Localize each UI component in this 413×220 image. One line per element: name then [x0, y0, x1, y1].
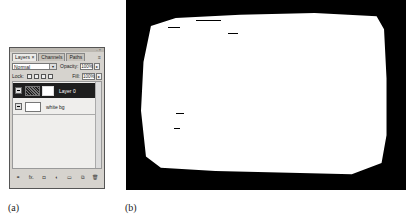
lock-row: Lock: Fill: 100% ▸: [12, 72, 102, 80]
lock-all-icon[interactable]: [48, 74, 53, 79]
group-icon[interactable]: ▭: [66, 174, 73, 180]
layer-thumbnail: [25, 86, 40, 96]
chevron-down-icon: ▾: [49, 64, 56, 69]
mask-icon[interactable]: ◘: [41, 174, 48, 180]
lock-icons: [27, 74, 53, 79]
eye-icon[interactable]: [15, 87, 22, 94]
panel-title-bar[interactable]: - ×: [10, 48, 104, 52]
lock-transparency-icon[interactable]: [27, 74, 32, 79]
trash-icon[interactable]: 🗑: [92, 174, 99, 180]
blend-row: Normal ▾ Opacity: 100% ▸: [12, 62, 102, 70]
streak: [176, 113, 184, 114]
tab-channels[interactable]: Channels: [38, 53, 65, 61]
panel-menu-icon[interactable]: ≡: [98, 54, 101, 60]
layers-scrollbar[interactable]: [95, 82, 101, 168]
panel-footer: ⚭ fx. ◘ ◐ ▭ ⧉ 🗑: [12, 172, 102, 181]
layer-row-white-bg[interactable]: white bg: [13, 99, 101, 115]
layer-name: Layer 0: [59, 88, 76, 94]
eye-icon[interactable]: [15, 103, 22, 110]
layers-panel: - × Layers × Channels Paths ≡ Normal ▾ O…: [9, 47, 105, 189]
opacity-label: Opacity:: [60, 63, 78, 69]
panel-tabs: Layers × Channels Paths: [12, 53, 85, 61]
layer-row-layer-0[interactable]: Layer 0: [13, 83, 101, 98]
fill-label: Fill:: [72, 73, 80, 79]
tab-layers[interactable]: Layers ×: [12, 53, 37, 61]
streak: [174, 128, 180, 129]
tab-paths[interactable]: Paths: [66, 53, 85, 61]
fill-input[interactable]: 100%: [82, 73, 95, 80]
white-center: [141, 13, 389, 176]
layer-thumbnail: [25, 102, 41, 112]
link-icon[interactable]: ⚭: [15, 174, 22, 180]
blend-mode-value: Normal: [14, 64, 30, 70]
lock-position-icon[interactable]: [41, 74, 46, 79]
lock-label: Lock:: [12, 73, 24, 79]
opacity-input[interactable]: 100%: [80, 63, 93, 70]
fx-icon[interactable]: fx.: [28, 174, 35, 180]
layer-name: white bg: [46, 104, 65, 110]
panel-close-icon[interactable]: - ×: [96, 48, 101, 52]
blend-mode-select[interactable]: Normal ▾: [12, 63, 57, 70]
streak: [228, 33, 238, 34]
caption-a: (a): [8, 202, 19, 213]
streak: [196, 20, 221, 21]
fill-slider-button[interactable]: ▸: [96, 73, 102, 80]
adjustment-icon[interactable]: ◐: [53, 174, 60, 180]
caption-b: (b): [125, 202, 137, 213]
layer-mask-thumbnail[interactable]: [42, 86, 54, 96]
layers-list: Layer 0 white bg: [12, 81, 102, 169]
grunge-frame-image: [126, 0, 406, 190]
opacity-slider-button[interactable]: ▸: [94, 63, 100, 70]
new-layer-icon[interactable]: ⧉: [79, 174, 86, 180]
lock-pixels-icon[interactable]: [34, 74, 39, 79]
streak: [168, 27, 180, 28]
